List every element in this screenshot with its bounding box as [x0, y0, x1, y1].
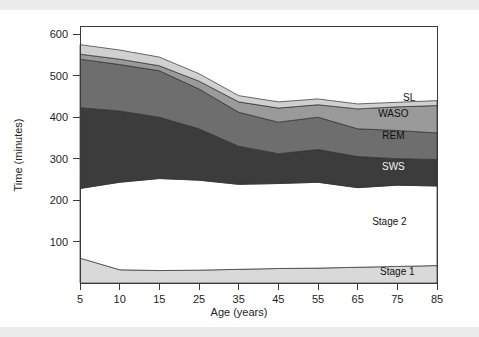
y-tick-label-500: 500: [50, 70, 68, 82]
y-axis-title: Time (minutes): [12, 119, 24, 192]
x-tick-label-55: 55: [312, 293, 324, 305]
x-tick-label-45: 45: [272, 293, 284, 305]
stacked-area-chart: 100200300400500600 5101525354555657585 S…: [0, 0, 479, 337]
x-tick-label-75: 75: [391, 293, 403, 305]
x-tick-label-25: 25: [193, 293, 205, 305]
y-tick-label-100: 100: [50, 236, 68, 248]
series-label-sl: SL: [403, 92, 416, 103]
y-tick-label-600: 600: [50, 28, 68, 40]
x-axis-title: Age (years): [211, 306, 268, 318]
y-tick-labels: 100200300400500600: [50, 28, 68, 247]
series-label-sws: SWS: [382, 161, 405, 172]
y-tick-label-300: 300: [50, 153, 68, 165]
series-label-waso: WASO: [378, 108, 408, 119]
y-tick-label-400: 400: [50, 111, 68, 123]
x-tick-labels: 5101525354555657585: [77, 293, 443, 305]
y-tick-label-200: 200: [50, 194, 68, 206]
x-tick-label-85: 85: [431, 293, 443, 305]
x-tick-label-65: 65: [352, 293, 364, 305]
x-tick-label-35: 35: [233, 293, 245, 305]
x-tick-label-15: 15: [153, 293, 165, 305]
series-label-stage-1: Stage 1: [380, 266, 415, 277]
figure-root: 100200300400500600 5101525354555657585 S…: [0, 0, 479, 337]
x-tick-label-10: 10: [114, 293, 126, 305]
series-label-stage-2: Stage 2: [372, 216, 407, 227]
x-tick-label-5: 5: [77, 293, 83, 305]
series-label-rem: REM: [382, 130, 404, 141]
